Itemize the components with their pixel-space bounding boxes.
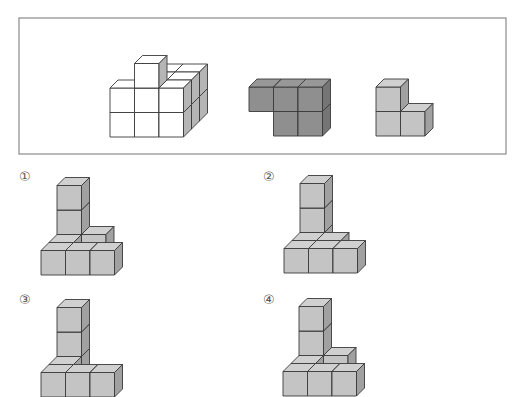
option-4-label: ④ [263, 293, 275, 307]
cube-front-face [284, 249, 309, 274]
cube [376, 79, 409, 112]
cube-front-face [376, 112, 401, 137]
cube-front-face [283, 372, 308, 397]
cube-front-face [309, 249, 334, 274]
cube [401, 104, 434, 137]
option-2-figure [284, 176, 366, 274]
cube-front-face [57, 308, 82, 333]
option-1-label: ① [19, 170, 31, 184]
option-1-figure [41, 178, 123, 276]
cube-front-face [135, 113, 160, 138]
cube-front-face [135, 88, 160, 113]
cube-front-face [66, 373, 91, 397]
cube-front-face [110, 88, 135, 113]
cube [57, 178, 90, 211]
cube-front-face [66, 251, 91, 276]
cube-front-face [333, 249, 358, 274]
cube-front-face [110, 113, 135, 138]
cube-front-face [299, 331, 324, 356]
cube-drawing [0, 0, 522, 397]
cube-front-face [249, 87, 274, 112]
cube-front-face [159, 113, 184, 138]
cube [135, 56, 168, 89]
cube-front-face [274, 87, 299, 112]
cube [332, 364, 365, 397]
option-2-label: ② [263, 170, 275, 184]
cube-front-face [299, 307, 324, 332]
cube [299, 299, 332, 332]
light-gray-piece [376, 79, 433, 136]
option-4-figure [283, 299, 365, 397]
cube-front-face [300, 208, 325, 233]
cube-front-face [90, 373, 115, 397]
option-3-label: ③ [19, 293, 31, 307]
cube [57, 300, 90, 333]
cube-front-face [274, 112, 299, 137]
option-3-figure [41, 300, 123, 397]
white-pyramid-structure [110, 56, 208, 138]
cube [333, 241, 366, 274]
cube [300, 176, 333, 209]
cube-front-face [401, 112, 426, 137]
cube-front-face [298, 87, 323, 112]
cube-front-face [298, 112, 323, 137]
cube-front-face [332, 372, 357, 397]
cube-front-face [159, 88, 184, 113]
cube-front-face [41, 373, 66, 397]
cube-front-face [300, 184, 325, 209]
cube-front-face [57, 210, 82, 235]
cube [90, 243, 123, 276]
puzzle-figure: ① ② ③ ④ [0, 0, 522, 397]
dark-gray-piece [249, 79, 331, 136]
cube-front-face [376, 87, 401, 112]
cube-front-face [135, 64, 160, 89]
cube [159, 80, 192, 113]
cube-front-face [57, 186, 82, 211]
cube-front-face [57, 332, 82, 357]
cube-front-face [308, 372, 333, 397]
cube-front-face [90, 251, 115, 276]
cube-front-face [41, 251, 66, 276]
cube [298, 79, 331, 112]
cube [90, 365, 123, 397]
